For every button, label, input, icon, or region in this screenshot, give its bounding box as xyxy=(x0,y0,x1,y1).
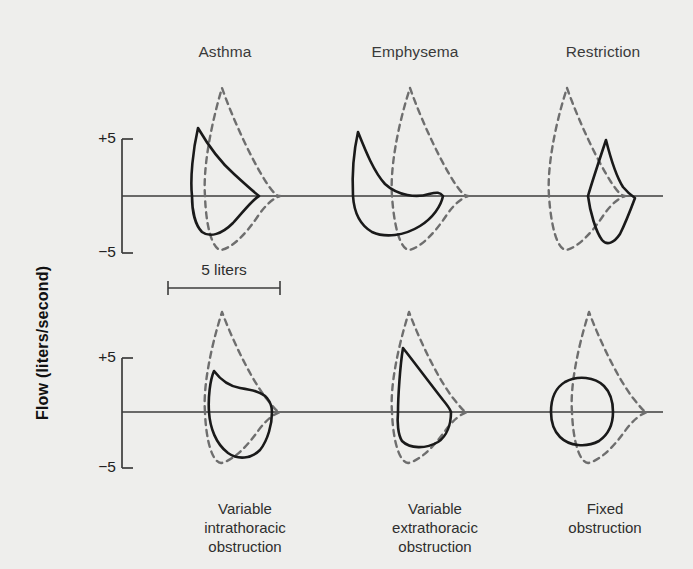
scale-bar xyxy=(168,281,280,295)
emphysema-patient-loop xyxy=(353,132,443,235)
variable-intrathoracic-patient-loop xyxy=(209,371,272,458)
bottom-axis-tick-plus5: +5 xyxy=(74,348,116,366)
caption-line-2: intrathoracic xyxy=(165,518,325,537)
flow-volume-loop-figure: Flow (liters/second) +5 −5 +5 −5 5 liter… xyxy=(0,0,693,569)
panel-caption-fixed-obstruction: Fixed obstruction xyxy=(530,499,680,537)
panel-title-emphysema: Emphysema xyxy=(340,43,490,61)
variable-extrathoracic-patient-loop xyxy=(398,348,451,447)
caption-line-1: Fixed xyxy=(530,499,680,518)
scale-bar-label: 5 liters xyxy=(144,261,304,279)
caption-line-3: obstruction xyxy=(165,537,325,556)
panel-variable-extrathoracic-curves xyxy=(392,312,467,463)
panel-caption-variable-extrathoracic: Variable extrathoracic obstruction xyxy=(350,499,520,557)
restriction-patient-loop xyxy=(588,140,635,243)
caption-line-1: Variable xyxy=(165,499,325,518)
asthma-normal-loop xyxy=(205,88,280,250)
top-axis-tick-plus5: +5 xyxy=(74,129,116,147)
panel-caption-variable-intrathoracic: Variable intrathoracic obstruction xyxy=(165,499,325,557)
y-axis-title: Flow (liters/second) xyxy=(34,266,52,420)
caption-line-3: obstruction xyxy=(350,537,520,556)
panel-fixed-obstruction-curves xyxy=(551,312,647,463)
top-axis-tick-minus5: −5 xyxy=(74,243,116,261)
caption-line-2: extrathoracic xyxy=(350,518,520,537)
panel-asthma-curves xyxy=(191,88,280,250)
bottom-axis-tick-minus5: −5 xyxy=(74,458,116,476)
caption-line-1: Variable xyxy=(350,499,520,518)
emphysema-normal-loop xyxy=(392,88,468,250)
caption-line-2: obstruction xyxy=(530,518,680,537)
panel-title-restriction: Restriction xyxy=(528,43,678,61)
asthma-patient-loop xyxy=(191,128,259,235)
panel-variable-intrathoracic-curves xyxy=(205,312,280,463)
fixed-obstruction-normal-loop xyxy=(572,312,647,463)
figure-canvas xyxy=(0,0,693,569)
panel-emphysema-curves xyxy=(353,88,468,250)
panel-restriction-curves xyxy=(549,88,635,250)
panel-title-asthma: Asthma xyxy=(160,43,290,61)
